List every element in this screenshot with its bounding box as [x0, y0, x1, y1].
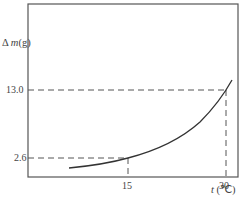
y-tick-13: 13.0	[6, 85, 24, 95]
y-axis-label: Δ m(g)	[2, 38, 31, 49]
data-curve	[69, 80, 232, 168]
y-tick-2-6: 2.6	[14, 153, 27, 163]
x-tick-15: 15	[122, 181, 132, 191]
chart-canvas	[0, 0, 243, 203]
x-tick-30: 30	[219, 181, 229, 191]
